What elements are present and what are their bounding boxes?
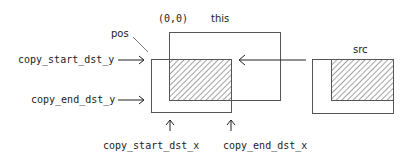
copy-region-diagram: (0,0) this pos src copy_start_dst_y copy…: [0, 0, 411, 159]
copy-end-dst-x-label: copy_end_dst_x: [223, 140, 307, 152]
copy-region-dst: [170, 60, 232, 101]
pos-label: pos: [111, 28, 129, 39]
origin-label: (0,0): [158, 13, 188, 24]
src-label: src: [353, 44, 368, 55]
pos-leader-line: [133, 37, 148, 52]
copy-region-src: [332, 60, 394, 101]
copy-end-dst-y-label: copy_end_dst_y: [31, 94, 115, 106]
copy-start-dst-x-label: copy_start_dst_x: [103, 140, 199, 152]
this-label: this: [211, 13, 229, 24]
copy-start-dst-y-label: copy_start_dst_y: [18, 54, 114, 66]
